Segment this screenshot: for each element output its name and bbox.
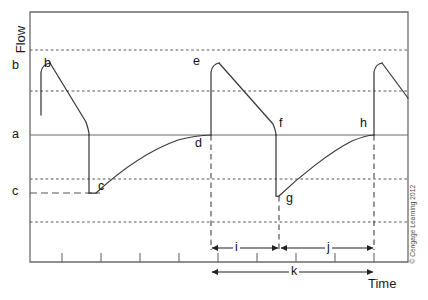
- curve-point-label-e: e: [193, 55, 200, 68]
- y-axis-label-a: a: [12, 128, 19, 141]
- flow-time-waveform-figure: Flow Time b a c b c d e f g h i j k © Ce…: [0, 0, 428, 300]
- dimension-label-i: i: [233, 241, 240, 254]
- cycle-2-recovery: [279, 135, 374, 196]
- y-axis-label-c: c: [12, 185, 18, 198]
- cycle-3-rise: [374, 63, 382, 135]
- cycle-2-rise: [211, 63, 219, 135]
- cycle-1-recovery: [96, 135, 211, 193]
- dimension-label-j: j: [325, 241, 332, 254]
- curve-point-label-c: c: [98, 180, 104, 193]
- curve-point-label-g: g: [286, 192, 293, 205]
- y-axis-label-b: b: [12, 59, 19, 72]
- copyright-credit: © Cengage Learning 2012: [409, 180, 416, 264]
- reference-gridlines: [30, 50, 408, 222]
- x-axis-ticks: [62, 253, 374, 262]
- cycle-2-decay: [219, 63, 276, 135]
- dimension-label-k: k: [289, 265, 299, 278]
- cycle-3-decay: [382, 63, 408, 98]
- curve-point-label-b: b: [44, 57, 51, 70]
- cycle-1-rise: [41, 63, 50, 115]
- curve-point-label-h: h: [360, 117, 367, 130]
- flow-waveform-trace: [41, 63, 408, 196]
- cycle-1-decay: [50, 63, 89, 135]
- x-axis-title: Time: [368, 276, 396, 291]
- curve-point-label-d: d: [195, 137, 202, 150]
- chart-canvas: [0, 0, 428, 300]
- curve-point-label-f: f: [279, 117, 282, 130]
